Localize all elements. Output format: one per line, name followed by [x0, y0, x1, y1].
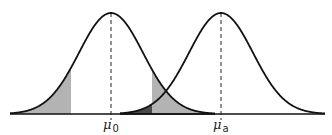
alternative-distribution-curve [120, 13, 325, 113]
mu-0-label: μ0 [103, 118, 119, 134]
mu-symbol: μ [103, 117, 111, 132]
mu-symbol: μ [213, 117, 221, 132]
mu-a-subscript: a [222, 123, 228, 134]
hypothesis-test-diagram [0, 0, 332, 135]
left-rejection-tail [10, 68, 71, 114]
right-rejection-tail [152, 70, 215, 114]
mu-a-label: μa [213, 118, 229, 134]
mu-0-subscript: 0 [112, 123, 118, 134]
